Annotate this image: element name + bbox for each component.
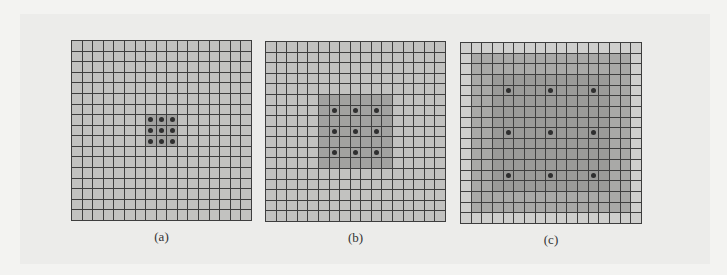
grid-cell (361, 84, 371, 94)
grid-cell (472, 128, 482, 138)
grid-cell (472, 64, 482, 74)
grid-cell (361, 74, 371, 84)
grid-cell (83, 189, 93, 199)
grid-cell (93, 126, 103, 136)
grid-cell (330, 95, 340, 105)
grid-cell (382, 211, 392, 221)
grid-cell (340, 211, 350, 221)
grid-cell (493, 64, 503, 74)
grid-cell (167, 147, 177, 157)
grid-cell (266, 53, 276, 63)
grid-cell (435, 84, 445, 94)
grid-cell (482, 160, 492, 170)
grid-cell (610, 75, 620, 85)
grid-cell (589, 149, 599, 159)
grid-b (265, 41, 446, 222)
grid-cell (287, 201, 297, 211)
grid-cell (146, 157, 156, 167)
grid-cell (493, 86, 503, 96)
grid-cell (298, 116, 308, 126)
grid-cell (461, 86, 471, 96)
grid-cell (599, 75, 609, 85)
grid-cell (188, 147, 198, 157)
grid-cell (277, 84, 287, 94)
grid-cell (435, 169, 445, 179)
grid-cell (557, 171, 567, 181)
grid-cell (361, 42, 371, 52)
grid-cell (589, 86, 599, 96)
grid-cell (157, 189, 167, 199)
grid-cell (72, 52, 82, 62)
grid-cell (351, 211, 361, 221)
grid-cell (72, 41, 82, 51)
grid-cell (136, 52, 146, 62)
grid-cell (372, 169, 382, 179)
kernel-tap-dot (548, 173, 553, 178)
grid-cell (298, 53, 308, 63)
grid-cell (393, 158, 403, 168)
kernel-tap-dot (548, 130, 553, 135)
grid-cell (287, 148, 297, 158)
grid-cell (382, 158, 392, 168)
grid-cell (157, 126, 167, 136)
grid-cell (382, 169, 392, 179)
grid-cell (351, 53, 361, 63)
grid-cell (351, 148, 361, 158)
kernel-tap-dot (159, 128, 164, 133)
grid-cell (188, 136, 198, 146)
grid-cell (308, 137, 318, 147)
grid-cell (621, 43, 631, 53)
grid-cell (104, 105, 114, 115)
grid-cell (514, 171, 524, 181)
grid-cell (589, 171, 599, 181)
grid-cell (114, 62, 124, 72)
grid-cell (340, 74, 350, 84)
grid-cell (308, 180, 318, 190)
grid-cell (146, 105, 156, 115)
grid-cell (340, 106, 350, 116)
grid-cell (546, 107, 556, 117)
grid-cell (266, 84, 276, 94)
grid-cell (493, 203, 503, 213)
grid-cell (298, 95, 308, 105)
grid-cell (525, 75, 535, 85)
grid-cell (599, 160, 609, 170)
grid-cell (425, 42, 435, 52)
grid-cell (472, 192, 482, 202)
grid-cell (514, 181, 524, 191)
grid-cell (361, 211, 371, 221)
grid-cell (414, 190, 424, 200)
kernel-tap-dot (148, 117, 153, 122)
grid-cell (167, 157, 177, 167)
grid-cell (621, 149, 631, 159)
grid-cell (104, 115, 114, 125)
grid-cell (167, 105, 177, 115)
grid-cell (188, 179, 198, 189)
grid-cell (136, 73, 146, 83)
grid-cell (589, 107, 599, 117)
grid-cell (610, 128, 620, 138)
grid-cell (599, 54, 609, 64)
grid-cell (340, 148, 350, 158)
grid-cell (414, 211, 424, 221)
grid-cell (557, 149, 567, 159)
grid-cell (266, 137, 276, 147)
grid-cell (319, 158, 329, 168)
grid-cell (340, 53, 350, 63)
grid-cell (382, 106, 392, 116)
grid-cell (382, 201, 392, 211)
grid-cell (567, 118, 577, 128)
grid-cell (157, 210, 167, 220)
grid-cell (308, 42, 318, 52)
grid-cell (220, 147, 230, 157)
grid-cell (220, 41, 230, 51)
grid-cell (220, 52, 230, 62)
grid-cell (136, 210, 146, 220)
caption-a: (a) (154, 229, 168, 245)
grid-cell (298, 169, 308, 179)
kernel-tap-dot (170, 128, 175, 133)
grid-cell (330, 201, 340, 211)
grid-cell (125, 210, 135, 220)
grid-cell (567, 213, 577, 223)
grid-cell (482, 75, 492, 85)
